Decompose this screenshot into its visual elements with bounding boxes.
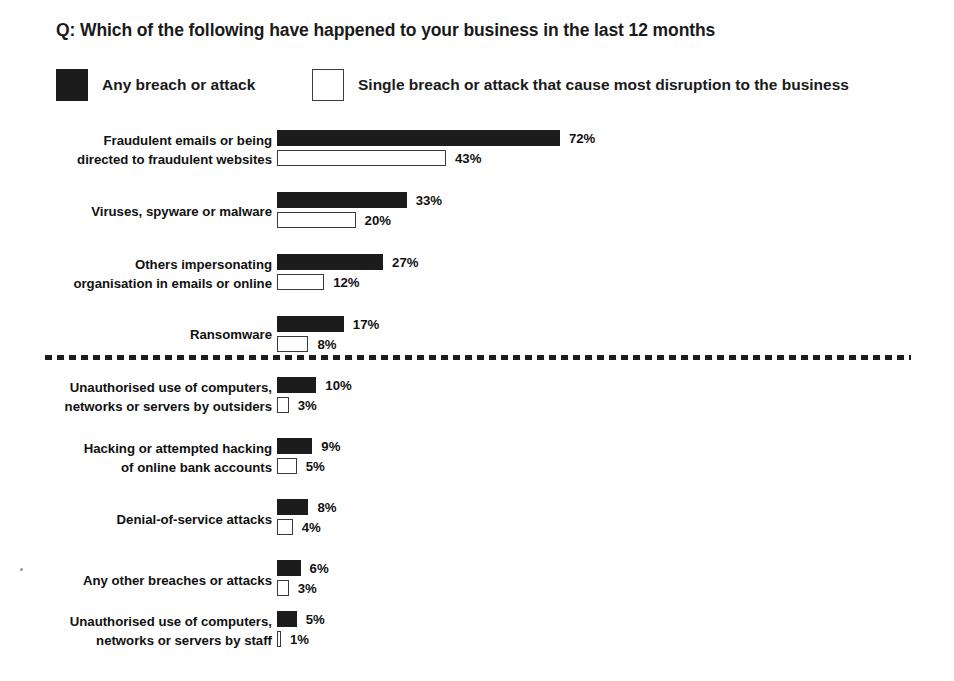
bar-single-breach [277,336,308,352]
bar-value-label: 8% [317,500,336,515]
bar-value-label: 5% [306,459,325,474]
bar-group-single-breach: 4% [277,519,337,535]
bar-group-any-breach: 9% [277,438,340,454]
row-label-line: Any other breaches or attacks [0,571,272,590]
bar-group-any-breach: 33% [277,192,442,208]
row-label-line: directed to fraudulent websites [0,150,272,169]
bar-group-single-breach: 43% [277,150,595,166]
bar-group-any-breach: 72% [277,130,595,146]
bar-group-single-breach: 3% [277,580,329,596]
bar-value-label: 3% [298,581,317,596]
bar-value-label: 8% [317,337,336,352]
bar-any-breach [277,611,297,627]
row-label-line: organisation in emails or online [0,274,272,293]
chart-row: Others impersonatingorganisation in emai… [0,254,954,300]
row-bars: 72%43% [277,130,595,166]
row-bars: 33%20% [277,192,442,228]
bar-value-label: 43% [455,151,481,166]
bar-value-label: 5% [306,612,325,627]
bar-value-label: 12% [333,275,359,290]
bar-value-label: 10% [325,378,351,393]
bar-single-breach [277,274,324,290]
bar-value-label: 20% [365,213,391,228]
row-bars: 5%1% [277,611,325,647]
row-label-line: Viruses, spyware or malware [0,202,272,221]
row-label-line: Others impersonating [0,255,272,274]
bar-single-breach [277,397,289,413]
bar-single-breach [277,580,289,596]
bar-group-single-breach: 3% [277,397,352,413]
bar-single-breach [277,212,356,228]
chart-row: Fraudulent emails or beingdirected to fr… [0,130,954,176]
row-label-line: Unauthorised use of computers, [0,378,272,397]
row-bars: 9%5% [277,438,340,474]
bar-group-any-breach: 27% [277,254,419,270]
chart-row: Unauthorised use of computers,networks o… [0,377,954,423]
bar-any-breach [277,130,560,146]
bar-group-single-breach: 1% [277,631,325,647]
bar-any-breach [277,192,407,208]
bar-group-any-breach: 17% [277,316,379,332]
bar-group-any-breach: 6% [277,560,329,576]
row-bars: 10%3% [277,377,352,413]
chart-plot-area: Fraudulent emails or beingdirected to fr… [0,0,954,681]
bar-single-breach [277,519,293,535]
bar-group-single-breach: 8% [277,336,379,352]
bar-group-any-breach: 5% [277,611,325,627]
bar-any-breach [277,560,301,576]
bar-any-breach [277,254,383,270]
bar-any-breach [277,438,312,454]
row-label-line: networks or servers by staff [0,631,272,650]
bar-value-label: 33% [416,193,442,208]
bar-group-single-breach: 12% [277,274,419,290]
bar-single-breach [277,150,446,166]
category-group-divider [45,355,911,360]
chart-row: Any other breaches or attacks6%3% [0,560,954,606]
chart-row: Hacking or attempted hackingof online ba… [0,438,954,484]
row-label: Fraudulent emails or beingdirected to fr… [0,131,272,169]
bar-value-label: 9% [321,439,340,454]
row-label: Ransomware [0,325,272,344]
chart-page: Q: Which of the following have happened … [0,0,954,681]
row-label-line: Unauthorised use of computers, [0,612,272,631]
row-label-line: Hacking or attempted hacking [0,439,272,458]
scan-artifact-speck [20,568,23,571]
bar-single-breach [277,458,297,474]
chart-row: Denial-of-service attacks8%4% [0,499,954,545]
row-label-line: of online bank accounts [0,458,272,477]
bar-value-label: 17% [353,317,379,332]
chart-row: Unauthorised use of computers,networks o… [0,611,954,657]
row-label-line: networks or servers by outsiders [0,397,272,416]
bar-value-label: 72% [569,131,595,146]
row-label: Hacking or attempted hackingof online ba… [0,439,272,477]
row-bars: 6%3% [277,560,329,596]
row-bars: 17%8% [277,316,379,352]
bar-group-single-breach: 20% [277,212,442,228]
bar-value-label: 6% [310,561,329,576]
row-label: Unauthorised use of computers,networks o… [0,612,272,650]
row-label: Denial-of-service attacks [0,510,272,529]
bar-any-breach [277,377,316,393]
row-bars: 27%12% [277,254,419,290]
bar-value-label: 27% [392,255,418,270]
bar-any-breach [277,499,308,515]
bar-value-label: 3% [298,398,317,413]
row-bars: 8%4% [277,499,337,535]
chart-row: Viruses, spyware or malware33%20% [0,192,954,238]
bar-group-single-breach: 5% [277,458,340,474]
row-label: Any other breaches or attacks [0,571,272,590]
bar-value-label: 1% [290,632,309,647]
row-label-line: Fraudulent emails or being [0,131,272,150]
row-label: Viruses, spyware or malware [0,202,272,221]
row-label-line: Denial-of-service attacks [0,510,272,529]
bar-group-any-breach: 10% [277,377,352,393]
bar-single-breach [277,631,281,647]
row-label: Unauthorised use of computers,networks o… [0,378,272,416]
bar-group-any-breach: 8% [277,499,337,515]
bar-value-label: 4% [302,520,321,535]
row-label-line: Ransomware [0,325,272,344]
row-label: Others impersonatingorganisation in emai… [0,255,272,293]
bar-any-breach [277,316,344,332]
